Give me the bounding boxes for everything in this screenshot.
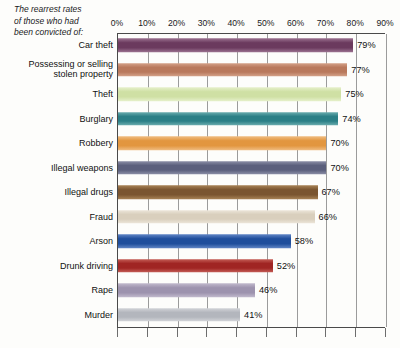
bar-track: 70% [118,131,385,156]
bar [118,137,326,151]
x-axis-tick-mark [117,328,118,337]
bar-value-label: 74% [338,114,360,124]
bar-row: Car theft79% [0,33,400,58]
bar-category-label-line: Robbery [0,138,113,149]
x-axis-tick-mark [236,328,237,337]
x-axis-tick-label: 30% [198,18,215,28]
bar-row: Robbery70% [0,131,400,156]
bar-category-label-line: Illegal drugs [0,187,113,198]
bar [118,186,318,200]
bar-row: Rape46% [0,278,400,303]
bar-value-label: 41% [240,310,262,320]
x-axis-tick-label: 50% [257,18,274,28]
bar-value-label: 66% [315,212,337,222]
bar-track: 67% [118,180,385,205]
bar-track: 77% [118,58,385,83]
bar-value-label: 52% [273,261,295,271]
bar-category-label: Theft [0,89,113,100]
bar-category-label: Fraud [0,211,113,222]
x-axis-tick-mark [206,328,207,337]
bar-category-label-line: Car theft [0,40,113,51]
bar [118,259,273,273]
bar-track: 74% [118,107,385,132]
bar-category-label: Illegal weapons [0,162,113,173]
bar [118,308,240,322]
x-axis-tick-label: 0% [111,18,123,28]
x-axis-tick-label: 10% [138,18,155,28]
bar-category-label: Illegal drugs [0,187,113,198]
bar-category-label-line: Murder [0,309,113,320]
bar-track: 75% [118,82,385,107]
bar-category-label-line: Fraud [0,211,113,222]
x-axis-bottom-ticks [117,328,385,337]
bar-category-label: Rape [0,285,113,296]
bar-row: Fraud66% [0,205,400,230]
x-axis-tick-label: 60% [287,18,304,28]
bar-track: 79% [118,33,385,58]
bar-value-label: 67% [318,187,340,197]
bar-row: Illegal weapons70% [0,156,400,181]
bar-rows: Car theft79%Possessing or sellingstolen … [0,33,400,327]
bar-track: 70% [118,156,385,181]
x-axis-tick-mark [355,328,356,337]
bar-category-label-line: Theft [0,89,113,100]
x-axis-tick-label: 90% [376,18,393,28]
bar-category-label: Car theft [0,40,113,51]
caption-line-1: The rearrest rates [14,4,118,16]
bar [118,161,326,175]
bar [118,63,347,77]
bar [118,284,255,298]
bar-track: 41% [118,303,385,328]
bar-row: Arson58% [0,229,400,254]
bar-category-label-line: Arson [0,236,113,247]
bar-category-label-line: stolen property [0,70,113,81]
bar-category-label: Burglary [0,113,113,124]
bar-value-label: 75% [341,89,363,99]
bar-value-label: 46% [255,285,277,295]
bar-track: 58% [118,229,385,254]
x-axis-tick-mark [385,328,386,337]
x-axis-tick-mark [266,328,267,337]
chart-page: The rearrest rates of those who had been… [0,0,400,348]
bar-track: 46% [118,278,385,303]
bar [118,235,291,249]
x-axis-tick-mark [325,328,326,337]
bar-category-label-line: Burglary [0,113,113,124]
bar-row: Possessing or sellingstolen property77% [0,58,400,83]
bar-category-label: Arson [0,236,113,247]
bar [118,88,341,102]
x-axis-tick-mark [147,328,148,337]
bar-value-label: 77% [347,65,369,75]
bar-category-label: Possessing or sellingstolen property [0,59,113,80]
bar-category-label-line: Rape [0,285,113,296]
bar-row: Drunk driving52% [0,254,400,279]
bar-category-label: Murder [0,309,113,320]
x-axis-tick-mark [177,328,178,337]
bar-category-label-line: Drunk driving [0,260,113,271]
bar [118,39,353,53]
bar-value-label: 79% [353,40,375,50]
x-axis-tick-mark [296,328,297,337]
x-axis-tick-label: 40% [228,18,245,28]
bar-track: 52% [118,254,385,279]
bar-track: 66% [118,205,385,230]
bar-category-label-line: Possessing or selling [0,59,113,70]
bar [118,210,315,224]
bar-value-label: 70% [326,138,348,148]
x-axis-tick-label: 70% [317,18,334,28]
bar-value-label: 58% [291,236,313,246]
bar-row: Theft75% [0,82,400,107]
bar [118,112,338,126]
x-axis-tick-label: 20% [168,18,185,28]
x-axis-tick-labels: 0%10%20%30%40%50%60%70%80%90% [0,18,400,32]
bar-row: Burglary74% [0,107,400,132]
bar-category-label: Drunk driving [0,260,113,271]
bar-row: Illegal drugs67% [0,180,400,205]
bar-row: Murder41% [0,303,400,328]
bar-category-label: Robbery [0,138,113,149]
bar-value-label: 70% [326,163,348,173]
x-axis-tick-label: 80% [347,18,364,28]
bar-category-label-line: Illegal weapons [0,162,113,173]
